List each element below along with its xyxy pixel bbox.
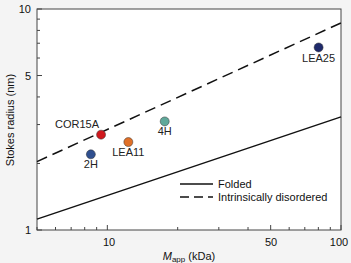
point-label: LEA11 — [112, 146, 144, 158]
point-label: 2H — [84, 158, 98, 170]
data-point-cor15a — [97, 130, 106, 139]
y-tick-label: 5 — [25, 70, 31, 82]
chart: COR15ALEA114H2HLEA25 10 5 1 10 50 100 Ma… — [0, 0, 351, 263]
y-axis-title: Stokes radius (nm) — [4, 74, 16, 166]
data-point-lea25 — [314, 43, 323, 52]
y-tick-label: 10 — [19, 3, 31, 15]
x-tick-label: 10 — [103, 236, 115, 248]
legend-disordered: Intrinsically disordered — [218, 191, 327, 203]
point-label: LEA25 — [302, 52, 335, 64]
x-tick-label: 100 — [330, 236, 348, 248]
point-label: COR15A — [55, 118, 100, 130]
x-tick-label: 50 — [265, 236, 277, 248]
point-label: 4H — [158, 125, 172, 137]
legend-folded: Folded — [218, 178, 252, 190]
y-tick-label: 1 — [25, 224, 31, 236]
x-axis-title: Mapp (kDa) — [163, 250, 215, 263]
